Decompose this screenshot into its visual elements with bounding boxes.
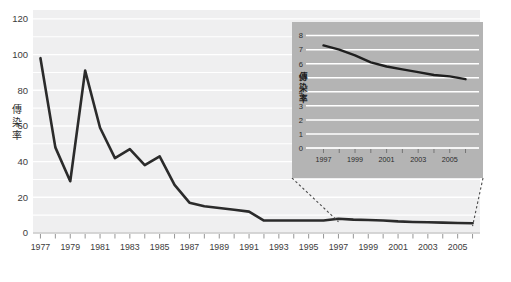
x-tick-label: 1987 [180,242,200,252]
inset-y-axis-title-char: 傳 [298,71,308,82]
y-tick-label: 100 [12,49,28,60]
x-tick-label: 1977 [31,242,51,252]
x-tick-label: 1995 [299,242,319,252]
inset-y-axis-title: 傳染率 [298,71,308,104]
inset-y-tick-label: 0 [299,144,303,153]
y-tick-label: 120 [12,13,28,24]
x-tick-label: 2003 [418,242,438,252]
inset-y-tick-label: 2 [299,116,303,125]
inset-x-tick-label: 2001 [379,155,395,164]
x-tick-label: 1989 [209,242,229,252]
main-y-axis-title: 傳染率 [12,103,22,141]
inset-y-tick-label: 7 [299,45,303,54]
inset-y-tick-label: 1 [299,130,303,139]
y-axis-title-char: 傳 [12,103,22,115]
inset-chart: 012345678 19971999200120032005 傳染率 [292,22,483,178]
x-tick-label: 2001 [388,242,408,252]
y-tick-label: 40 [17,156,28,167]
inset-x-tick-label: 2005 [442,155,458,164]
x-tick-label: 1993 [269,242,289,252]
infection-rate-figure: 020406080100120 197719791981198319851987… [0,0,511,282]
y-tick-label: 80 [17,85,28,96]
x-tick-label: 1983 [120,242,140,252]
inset-y-tick-label: 8 [299,31,303,40]
inset-y-axis-title-char: 染 [298,82,308,93]
chart-canvas: 020406080100120 197719791981198319851987… [0,0,511,282]
x-tick-label: 2005 [448,242,468,252]
x-tick-label: 1999 [358,242,378,252]
inset-x-tick-label: 2003 [410,155,426,164]
x-tick-label: 1979 [60,242,80,252]
y-tick-label: 20 [17,192,28,203]
y-axis-title-char: 染 [12,116,22,128]
inset-x-tick-label: 1997 [315,155,331,164]
x-tick-label: 1991 [239,242,259,252]
y-axis-title-char: 率 [12,129,22,141]
y-tick-label: 0 [23,227,28,238]
inset-x-tick-label: 1999 [347,155,363,164]
inset-y-axis-title-char: 率 [299,93,308,104]
x-tick-label: 1981 [90,242,110,252]
x-tick-label: 1997 [329,242,349,252]
x-tick-label: 1985 [150,242,170,252]
inset-y-tick-label: 6 [299,60,303,69]
